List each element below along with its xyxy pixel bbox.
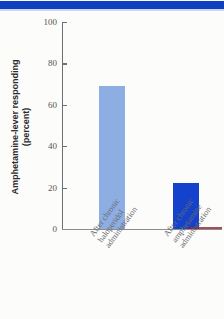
header-rule bbox=[0, 1, 224, 9]
y-tick-label: 60 bbox=[48, 100, 57, 110]
plot-area: 020406080100 bbox=[62, 22, 222, 229]
y-tick-mark bbox=[62, 22, 67, 23]
y-axis-title-line-2: (percent) bbox=[21, 59, 32, 194]
y-tick-label: 80 bbox=[48, 58, 57, 68]
y-tick-label: 0 bbox=[53, 224, 58, 234]
y-tick-label: 20 bbox=[48, 183, 57, 193]
y-axis-title-line-1: Amphetamine-lever responding bbox=[10, 59, 20, 194]
header-rule-highlight bbox=[0, 9, 224, 11]
chart-figure: Amphetamine-lever responding (percent) 0… bbox=[0, 0, 224, 319]
y-axis-line bbox=[62, 22, 63, 229]
y-tick-mark bbox=[62, 188, 67, 189]
y-tick-mark bbox=[62, 105, 67, 106]
y-tick-mark bbox=[62, 146, 67, 147]
y-axis-title: Amphetamine-lever responding (percent) bbox=[8, 22, 34, 232]
y-tick-label: 100 bbox=[44, 17, 58, 27]
y-tick-mark bbox=[62, 63, 67, 64]
y-tick-label: 40 bbox=[48, 141, 57, 151]
